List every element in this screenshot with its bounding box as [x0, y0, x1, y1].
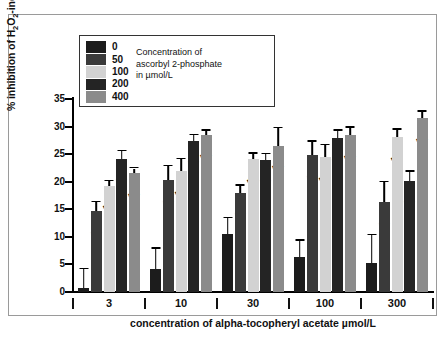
x-axis-tick [432, 298, 434, 309]
bar[interactable] [260, 160, 271, 292]
bar[interactable] [345, 135, 356, 292]
bar[interactable] [307, 155, 318, 292]
legend-label: 50 [112, 55, 136, 65]
bar-fill [150, 269, 161, 292]
bar-fill [404, 181, 415, 292]
bar[interactable] [248, 159, 259, 292]
y-axis-tick-label: 35 [43, 94, 65, 104]
error-bar [337, 131, 339, 138]
bar[interactable] [78, 288, 89, 292]
error-bar-cap [151, 247, 160, 249]
error-bar-cap [261, 153, 270, 155]
legend-swatch [86, 54, 106, 66]
bar[interactable] [91, 211, 102, 292]
bar[interactable] [379, 202, 390, 292]
bar[interactable] [163, 180, 174, 292]
y-axis-tick-labels: 05101520253035 [31, 15, 65, 342]
bar-fill [78, 288, 89, 292]
error-bar-cap [418, 110, 427, 112]
x-axis-tick [360, 298, 362, 309]
error-bar [168, 166, 170, 180]
bar[interactable] [176, 171, 187, 292]
y-axis-title-part2: O [5, 18, 17, 26]
legend-entry[interactable]: 400 [86, 91, 268, 103]
bar-fill [222, 234, 233, 292]
bar[interactable] [273, 146, 284, 292]
bar-fill [248, 159, 259, 292]
bar-group: ************ [145, 99, 217, 292]
error-bar-cap [380, 181, 389, 183]
x-axis-tick-label: 300 [377, 297, 417, 309]
bar[interactable] [129, 173, 140, 292]
bar[interactable] [150, 269, 161, 292]
error-bar [121, 151, 123, 158]
bar-fill [91, 211, 102, 292]
legend-label: 100 [112, 67, 136, 77]
legend: 050100200400 Concentration of ascorbyl 2… [79, 35, 275, 107]
y-axis-title-part3: -induced oxidation [5, 0, 17, 14]
error-bar [396, 130, 398, 137]
bar[interactable] [222, 234, 233, 292]
bar-fill [129, 173, 140, 292]
error-bar-cap [367, 234, 376, 236]
error-bar [240, 186, 242, 193]
error-bar-cap [333, 129, 342, 131]
error-bar-cap [164, 165, 173, 167]
error-bar-cap [202, 129, 211, 131]
bar[interactable] [235, 193, 246, 292]
error-bar [96, 202, 98, 211]
legend-caption: Concentration of ascorbyl 2-phosphate in… [136, 47, 264, 82]
error-bar [180, 159, 182, 171]
error-bar [227, 218, 229, 233]
y-axis-tick-label: 5 [43, 259, 65, 269]
error-bar-cap [249, 152, 258, 154]
legend-label: 400 [112, 92, 136, 102]
error-bar-cap [321, 144, 330, 146]
bar-fill [163, 180, 174, 292]
bar[interactable] [366, 263, 377, 292]
bar-fill [379, 202, 390, 292]
figure-frame: % inhibition of H2O2-induced oxidation 0… [8, 14, 437, 316]
legend-swatch [86, 79, 106, 91]
y-axis-tick [65, 153, 73, 155]
bar-fill [392, 137, 403, 292]
bar[interactable] [320, 157, 331, 292]
y-axis-tick-label: 30 [43, 122, 65, 132]
y-axis-tick [65, 263, 73, 265]
x-axis-tick [144, 298, 146, 309]
error-bar-cap [295, 239, 304, 241]
bar[interactable] [294, 257, 305, 292]
error-bar-cap [105, 180, 114, 182]
error-bar [384, 182, 386, 202]
bar-fill [294, 257, 305, 292]
bar-fill [188, 141, 199, 292]
y-axis-tick-label: 10 [43, 232, 65, 242]
bar[interactable] [392, 137, 403, 292]
error-bar-cap [117, 150, 126, 152]
bar[interactable] [188, 141, 199, 292]
bar[interactable] [116, 159, 127, 292]
bar[interactable] [404, 181, 415, 292]
y-axis-tick [65, 291, 73, 293]
y-axis-tick [65, 98, 73, 100]
bar[interactable] [417, 118, 428, 292]
error-bar-cap [130, 167, 139, 169]
legend-caption-line-2: ascorbyl 2-phosphate [136, 59, 264, 71]
y-axis-tick [65, 236, 73, 238]
y-axis-title-sub2: 2 [11, 14, 20, 18]
error-bar-cap [79, 268, 88, 270]
bar-fill [104, 186, 115, 292]
y-axis-tick-label: 15 [43, 204, 65, 214]
legend-swatch [86, 41, 106, 53]
bar[interactable] [332, 138, 343, 292]
x-axis-tick-label: 100 [305, 297, 345, 309]
error-bar [421, 112, 423, 119]
y-axis-tick-label: 20 [43, 177, 65, 187]
y-axis-tick [65, 208, 73, 210]
error-bar [312, 142, 314, 155]
bar[interactable] [104, 186, 115, 292]
error-bar-cap [223, 217, 232, 219]
bar[interactable] [201, 135, 212, 292]
bar-fill [273, 146, 284, 292]
y-axis-title-sub1: 2 [11, 26, 20, 30]
